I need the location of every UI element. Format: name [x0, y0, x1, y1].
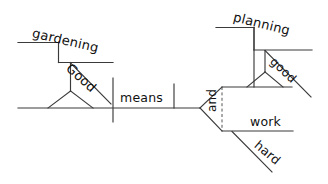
- label-work: work: [250, 116, 281, 129]
- label-means: means: [120, 92, 163, 105]
- label-and: and: [206, 89, 218, 112]
- sentence-diagram: gardening Good means planning good and w…: [0, 0, 328, 184]
- subject-triangle-left-leg: [48, 91, 71, 108]
- planning-triangle-left-leg: [247, 72, 265, 87]
